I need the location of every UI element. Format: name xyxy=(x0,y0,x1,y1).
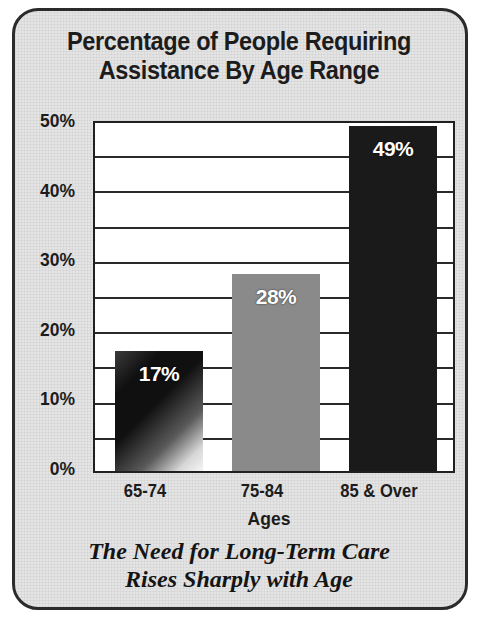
chart-plot-wrapper: 50% 40% 30% 20% 10% 0% 17% 28% 49% xyxy=(81,113,457,475)
chart-title-line-1: Percentage of People Requiring xyxy=(40,27,439,56)
y-axis-label-10: 10% xyxy=(11,388,75,410)
plot-area: 17% 28% 49% xyxy=(93,121,455,473)
chart-caption-line-2: Rises Sharply with Age xyxy=(39,565,439,593)
y-axis-label-40: 40% xyxy=(11,180,75,202)
y-axis-label-50: 50% xyxy=(11,110,75,132)
poster-frame: Percentage of People Requiring Assistanc… xyxy=(12,8,468,610)
y-axis-label-0: 0% xyxy=(11,458,75,480)
chart-caption: The Need for Long-Term Care Rises Sharpl… xyxy=(39,537,439,593)
chart-caption-line-1: The Need for Long-Term Care xyxy=(39,537,439,565)
y-tick-45 xyxy=(441,156,451,158)
y-tick-35 xyxy=(441,227,451,229)
chart-title-line-2: Assistance By Age Range xyxy=(40,56,439,85)
x-axis-title: Ages xyxy=(96,508,442,530)
bar-65-74[interactable]: 17% xyxy=(115,351,203,471)
y-axis-label-30: 30% xyxy=(11,249,75,271)
y-axis-label-20: 20% xyxy=(11,319,75,341)
x-axis-label-65-74: 65-74 xyxy=(81,481,210,502)
bar-value-label-75-84: 28% xyxy=(232,285,320,309)
bar-75-84[interactable]: 28% xyxy=(232,274,320,471)
x-axis-label-75-84: 75-84 xyxy=(198,481,327,502)
x-axis-label-85-over: 85 & Over xyxy=(315,481,444,502)
bar-value-label-65-74: 17% xyxy=(115,362,203,386)
bar-value-label-85-over: 49% xyxy=(349,137,437,161)
chart-title: Percentage of People Requiring Assistanc… xyxy=(40,27,439,85)
bar-85-over[interactable]: 49% xyxy=(349,126,437,471)
